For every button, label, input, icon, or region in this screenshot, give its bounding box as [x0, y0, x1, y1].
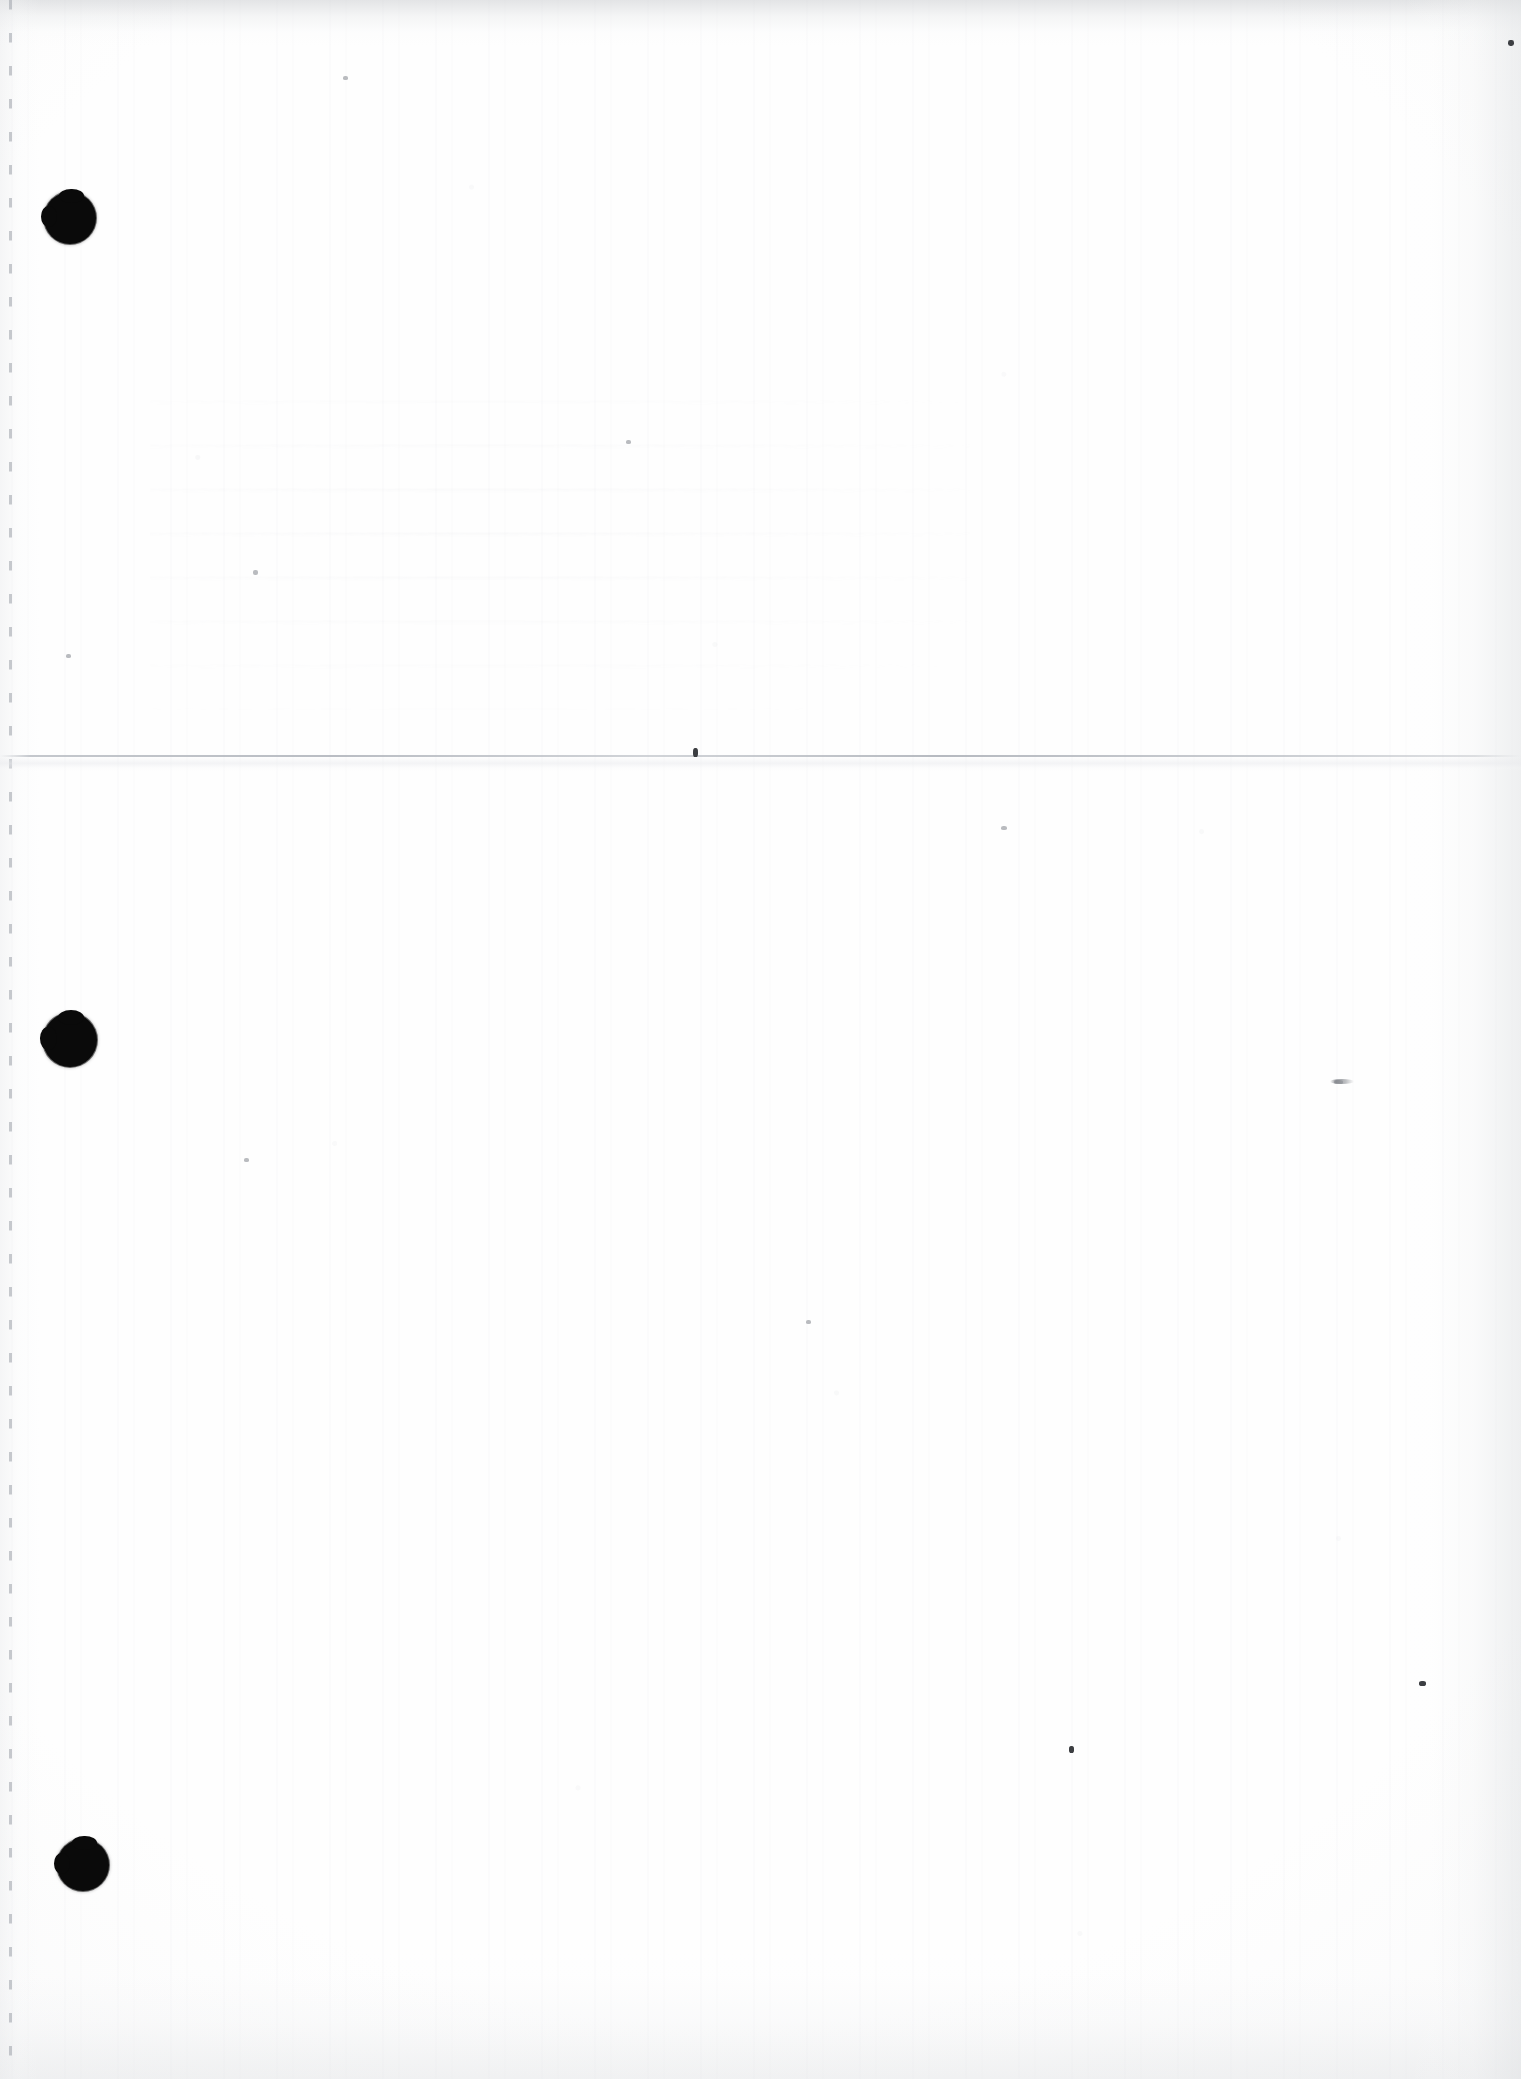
paper-background	[0, 0, 1521, 2079]
punch-hole-top	[44, 192, 96, 244]
scanned-page	[0, 0, 1521, 2079]
punch-hole-middle	[43, 1013, 97, 1067]
punch-hole-bottom	[57, 1839, 109, 1891]
